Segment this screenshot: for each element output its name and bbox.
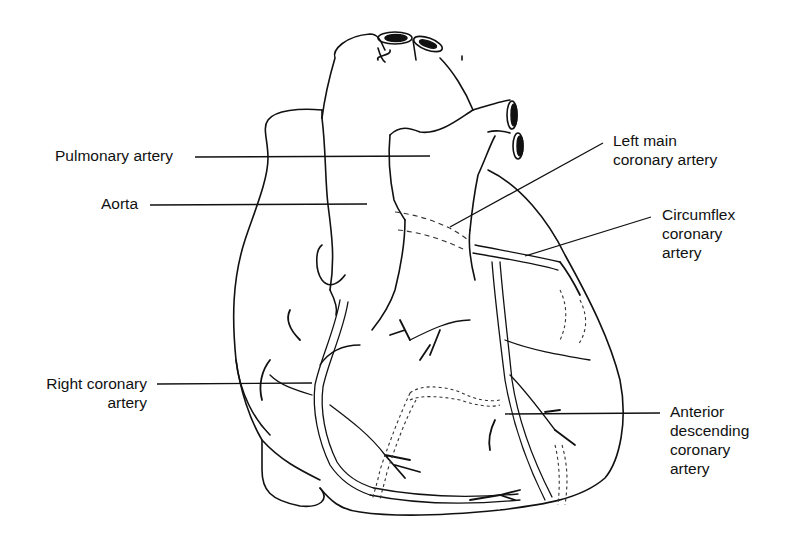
hidden-vessels [372, 212, 586, 505]
leader-pulmonary-artery [195, 156, 430, 157]
leader-aorta [150, 204, 367, 205]
pulmonary-trunk [372, 100, 523, 330]
leader-circumflex [525, 217, 651, 256]
label-anterior-descending-coronary-artery: Anterior descending coronary artery [670, 402, 749, 478]
leader-anterior-descending [505, 413, 660, 414]
leader-lines [150, 143, 660, 414]
aorta-outline [322, 34, 473, 290]
label-pulmonary-artery: Pulmonary artery [55, 146, 173, 165]
heart-outline [236, 170, 623, 515]
label-aorta: Aorta [101, 194, 138, 213]
superior-vena-cava [234, 109, 322, 435]
left-coronary-system [390, 245, 590, 500]
heart-diagram: Pulmonary artery Aorta Left main coronar… [0, 0, 787, 541]
arch-vessel-openings [378, 32, 444, 62]
heart-illustration [0, 0, 787, 541]
label-left-main-coronary-artery: Left main coronary artery [613, 131, 717, 169]
label-right-coronary-artery: Right coronary artery [20, 374, 147, 412]
label-circumflex-coronary-artery: Circumflex coronary artery [662, 205, 735, 262]
leader-right-coronary [157, 383, 312, 384]
leader-left-main [450, 143, 603, 227]
right-coronary-artery-vessel [260, 300, 520, 503]
